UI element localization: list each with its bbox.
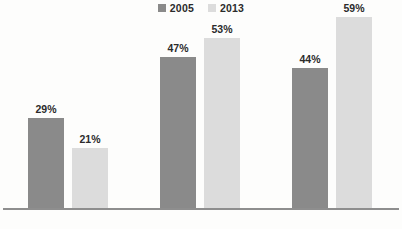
bar <box>204 38 240 208</box>
bar <box>160 57 196 208</box>
bar-value-label: 21% <box>64 134 116 145</box>
bar <box>336 17 372 208</box>
bar-chart: 2005 2013 29%21%47%53%44%59% <box>0 0 402 229</box>
bar <box>292 68 328 208</box>
bar <box>72 148 108 208</box>
bar-value-label: 29% <box>20 104 72 115</box>
bar-value-label: 47% <box>152 43 204 54</box>
plot-area: 29%21%47%53%44%59% <box>0 0 402 229</box>
category-axis-labels <box>0 213 402 229</box>
bar-value-label: 44% <box>284 54 336 65</box>
bar-value-label: 59% <box>328 3 380 14</box>
bar-value-label: 53% <box>196 24 248 35</box>
bar <box>28 118 64 208</box>
x-axis-baseline <box>3 208 399 210</box>
